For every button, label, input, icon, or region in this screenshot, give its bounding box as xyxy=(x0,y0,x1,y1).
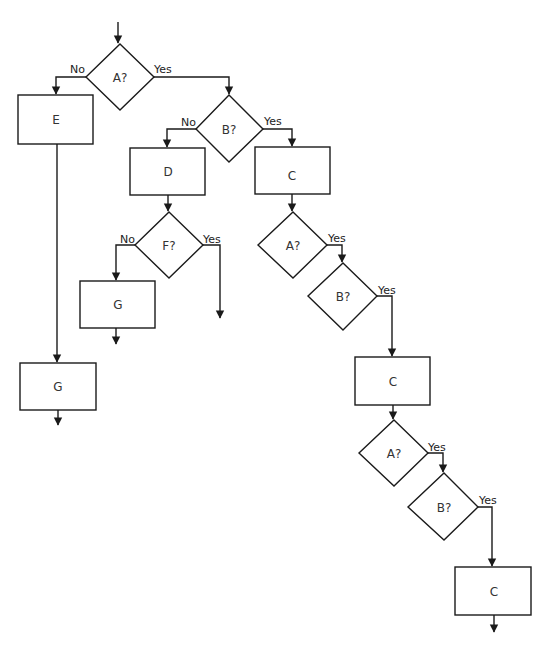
edge-label-a1-yes: Yes xyxy=(153,63,172,76)
decision-b3-label: B? xyxy=(437,501,452,515)
decision-b1: B? xyxy=(196,95,263,162)
decision-a1-label: A? xyxy=(113,71,128,85)
process-d-label: D xyxy=(163,165,172,179)
edge-b2-yes xyxy=(377,296,392,356)
edge-b3-yes xyxy=(478,507,492,566)
edge-b1-yes xyxy=(263,129,292,146)
process-e: E xyxy=(18,95,93,144)
edge-label-a1-no: No xyxy=(70,63,85,76)
decision-b2: B? xyxy=(308,263,377,330)
flowchart-canvas: A? No Yes E B? No Yes D C F? No Yes xyxy=(0,0,547,646)
edge-label-a2-yes: Yes xyxy=(327,232,346,245)
edge-a2-yes xyxy=(327,245,342,262)
decision-f: F? xyxy=(135,212,203,278)
edge-f-no xyxy=(116,245,135,280)
edge-label-b2-yes: Yes xyxy=(377,284,396,297)
edge-label-f-no: No xyxy=(120,233,135,246)
process-g1: G xyxy=(80,281,155,328)
decision-f-label: F? xyxy=(162,239,175,253)
process-c2: C xyxy=(355,357,430,405)
process-c3: C xyxy=(455,567,531,615)
process-e-label: E xyxy=(52,113,60,127)
edge-a1-yes xyxy=(154,77,229,94)
edge-a3-yes xyxy=(428,453,443,472)
process-c2-label: C xyxy=(389,375,397,389)
decision-b1-label: B? xyxy=(222,123,237,137)
decision-a3: A? xyxy=(359,420,428,486)
process-c1-label: C xyxy=(288,169,296,183)
decision-a1: A? xyxy=(86,44,154,110)
process-d: D xyxy=(130,148,205,195)
decision-a2: A? xyxy=(258,212,327,278)
decision-a3-label: A? xyxy=(387,447,402,461)
process-g1-label: G xyxy=(113,298,122,312)
edge-label-b3-yes: Yes xyxy=(478,494,497,507)
decision-b2-label: B? xyxy=(336,290,351,304)
edge-f-yes xyxy=(203,245,220,318)
process-c3-label: C xyxy=(490,585,498,599)
edge-b1-no xyxy=(167,129,196,147)
process-c1: C xyxy=(255,147,330,194)
edge-label-b1-yes: Yes xyxy=(263,115,282,128)
edge-a1-no xyxy=(56,77,86,94)
decision-b3: B? xyxy=(408,473,478,540)
edge-label-f-yes: Yes xyxy=(202,233,221,246)
process-g2: G xyxy=(20,363,96,410)
edge-label-b1-no: No xyxy=(181,116,196,129)
edge-label-a3-yes: Yes xyxy=(427,441,446,454)
process-g2-label: G xyxy=(53,380,62,394)
decision-a2-label: A? xyxy=(286,239,301,253)
